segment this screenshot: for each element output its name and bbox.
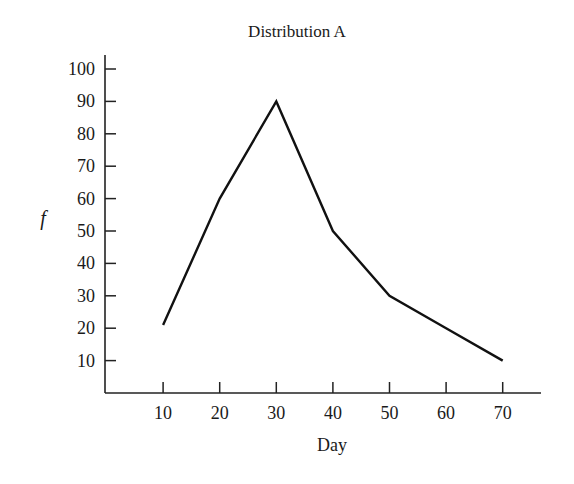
x-tick-label: 20 xyxy=(211,403,229,423)
y-tick-label: 50 xyxy=(77,221,95,241)
chart-title: Distribution A xyxy=(248,22,346,41)
y-tick-label: 40 xyxy=(77,253,95,273)
y-tick-label: 30 xyxy=(77,286,95,306)
x-tick-label: 50 xyxy=(381,403,399,423)
y-tick-label: 10 xyxy=(77,351,95,371)
line-chart: Distribution A 102030405060708090100 102… xyxy=(0,0,574,484)
y-axis-label: f xyxy=(40,207,48,230)
x-tick-label: 70 xyxy=(494,403,512,423)
y-tick-label: 90 xyxy=(77,91,95,111)
y-tick-label: 80 xyxy=(77,124,95,144)
x-tick-label: 30 xyxy=(267,403,285,423)
y-tick-label: 60 xyxy=(77,189,95,209)
y-axis-ticks: 102030405060708090100 xyxy=(68,59,116,371)
y-tick-label: 20 xyxy=(77,318,95,338)
x-tick-label: 40 xyxy=(324,403,342,423)
data-line xyxy=(163,101,503,360)
x-tick-label: 10 xyxy=(154,403,172,423)
x-axis-ticks: 10203040506070 xyxy=(154,382,512,423)
x-axis-label: Day xyxy=(317,435,347,455)
x-tick-label: 60 xyxy=(437,403,455,423)
y-tick-label: 70 xyxy=(77,156,95,176)
y-tick-label: 100 xyxy=(68,59,95,79)
